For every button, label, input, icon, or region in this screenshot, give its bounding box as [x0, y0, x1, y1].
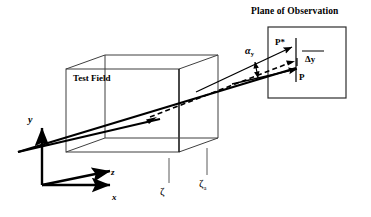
box-bottom-back — [66, 138, 218, 152]
ray-incoming-segment — [18, 68, 296, 152]
ray-to-Pstar — [196, 47, 292, 92]
ray-dashed-arrowhead — [286, 61, 295, 66]
delta-y-label: Δy — [305, 55, 315, 64]
alpha-double-arrow — [255, 62, 258, 78]
ray-incoming-left — [18, 119, 160, 152]
test-field-box — [66, 55, 218, 152]
zeta-label: ζ — [160, 186, 165, 197]
point-p-label: P — [299, 73, 305, 82]
figure-canvas: Plane of Observation Test Field P* P Δy … — [0, 0, 371, 217]
box-edge-top-right — [179, 55, 218, 69]
diagram-vector-layer — [0, 0, 371, 217]
coordinate-axes — [42, 128, 110, 185]
alpha-symbol: α — [245, 45, 251, 56]
ray-undeflected — [18, 68, 297, 152]
axis-z-arrow — [42, 171, 110, 185]
alpha-subscript: y — [251, 50, 254, 57]
zeta-a-label: ζa — [199, 178, 206, 189]
box-back-edges — [66, 55, 218, 152]
alpha-y-label: αy — [245, 46, 254, 56]
observation-plane-title: Plane of Observation — [251, 7, 339, 17]
axis-y-label: y — [28, 115, 32, 125]
point-p-star-label: P* — [275, 38, 285, 47]
ray-deflected — [196, 47, 292, 92]
zeta-a-symbol: ζ — [199, 177, 204, 189]
test-field-label: Test Field — [73, 74, 110, 83]
angle-alpha-indicator — [255, 62, 258, 78]
axis-x-label: x — [112, 193, 117, 202]
ray-dashed-line — [150, 62, 292, 117]
axis-z-label: z — [111, 168, 115, 177]
